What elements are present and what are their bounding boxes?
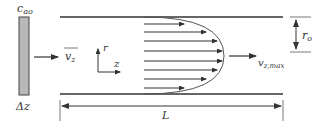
- velocity-profile-arrows: [144, 24, 222, 88]
- flow-diagram: cao Δz vz r z vz,max ro L: [0, 0, 329, 127]
- velocity-profile-curve: [144, 17, 224, 94]
- solute-slab: [19, 17, 29, 95]
- r-axis-label: r: [103, 42, 109, 53]
- radius-label: ro: [302, 29, 312, 43]
- max-velocity-label: vz,max: [258, 57, 284, 70]
- concentration-label: cao: [17, 2, 33, 16]
- length-label: L: [161, 109, 169, 122]
- slab-thickness-label: Δz: [15, 100, 30, 113]
- mean-velocity-label: vz: [65, 50, 76, 64]
- z-axis-label: z: [113, 58, 120, 69]
